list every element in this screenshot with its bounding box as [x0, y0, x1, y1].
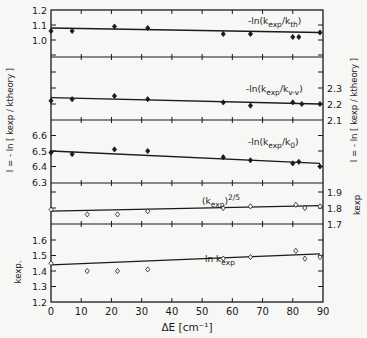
series-label-5: ln kexp [205, 254, 235, 267]
data-point-filled-diamond [49, 98, 53, 103]
fit-line [51, 254, 320, 265]
data-point-filled-diamond [248, 31, 252, 36]
data-point-open-diamond [115, 268, 119, 273]
data-point-open-diamond [294, 248, 298, 253]
outer-frame [51, 10, 323, 302]
left-y-axis-title-upper: I = - ln [ kexp / ktheory ] [5, 68, 15, 172]
data-point-filled-diamond [318, 164, 322, 169]
panel-5-y-ticks: 1.21.31.41.51.6 [32, 235, 323, 308]
data-point-filled-diamond [318, 101, 322, 106]
x-axis-title: ΔE [cm⁻¹] [161, 321, 212, 333]
panel-2: 2.12.22.3-ln(kexp/kv-v) [49, 72, 342, 126]
y-tick-label: 1.1 [32, 20, 47, 31]
left-y-axis-title-lower: kexp. [13, 261, 23, 284]
series-label-4: (kexp)2/5 [202, 193, 240, 209]
data-point-filled-diamond [248, 158, 252, 163]
data-point-filled-diamond [297, 159, 301, 164]
series-label-3: -ln(kexp/k0) [248, 137, 298, 150]
panel-3: 6.36.46.56.6-ln(kexp/k0) [32, 130, 323, 188]
panels: 1.01.11.2-ln(kexp/kth)2.12.22.3-ln(kexp/… [32, 5, 342, 308]
right-y-axis-title-upper: I = - ln [ kexp / ktheory ] [349, 58, 359, 162]
y-tick-label: 2.3 [327, 83, 342, 94]
x-tick-label: 80 [286, 306, 299, 317]
panel-1: 1.01.11.2-ln(kexp/kth) [32, 5, 323, 61]
data-point-open-diamond [146, 267, 150, 272]
fit-line [51, 28, 320, 33]
data-point-open-diamond [303, 256, 307, 261]
data-point-open-diamond [85, 212, 89, 217]
panel-4-markers [49, 202, 322, 217]
y-tick-label: 1.6 [32, 235, 47, 246]
right-y-axis-title-lower: kexp [352, 195, 362, 215]
panel-3-y-ticks: 6.36.46.56.6 [32, 130, 323, 188]
y-tick-label: 1.8 [327, 203, 342, 214]
series-label-2: -ln(kexp/kv-v) [246, 84, 303, 97]
y-tick-label: 2.1 [327, 115, 342, 126]
y-tick-label: 6.4 [32, 161, 47, 172]
y-axis-labels: I = - ln [ kexp / ktheory ]kexp.I = - ln… [5, 58, 362, 284]
panel-5-markers [49, 248, 322, 273]
x-tick-label: 30 [135, 306, 148, 317]
data-point-open-diamond [248, 204, 252, 209]
stacked-scatter-figure: 1.01.11.2-ln(kexp/kth)2.12.22.3-ln(kexp/… [0, 0, 367, 338]
data-point-filled-diamond [146, 148, 150, 153]
x-tick-label: 40 [166, 306, 179, 317]
y-tick-label: 6.3 [32, 177, 47, 188]
data-point-filled-diamond [318, 30, 322, 35]
x-tick-label: 20 [105, 306, 118, 317]
y-tick-label: 1.2 [32, 5, 47, 16]
data-point-open-diamond [115, 212, 119, 217]
data-point-filled-diamond [291, 100, 295, 105]
fit-line [51, 151, 320, 163]
x-tick-label: 50 [196, 306, 209, 317]
data-point-filled-diamond [221, 100, 225, 105]
y-tick-label: 1.3 [32, 281, 47, 292]
y-tick-label: 1.0 [32, 35, 47, 46]
x-tick-label: 60 [226, 306, 239, 317]
data-point-filled-diamond [221, 31, 225, 36]
y-tick-label: 1.7 [327, 219, 342, 230]
y-tick-label: 6.6 [32, 130, 47, 141]
data-point-filled-diamond [49, 28, 53, 33]
y-tick-label: 1.9 [327, 187, 342, 198]
data-point-filled-diamond [112, 93, 116, 98]
data-point-filled-diamond [70, 97, 74, 102]
plot-frame [51, 10, 323, 302]
x-axis: 0102030405060708090ΔE [cm⁻¹] [48, 298, 330, 333]
y-tick-label: 1.4 [32, 266, 47, 277]
data-point-filled-diamond [112, 147, 116, 152]
fit-line [51, 98, 320, 104]
panel-5: 1.21.31.41.51.6ln kexp [32, 235, 323, 308]
data-point-open-diamond [85, 268, 89, 273]
data-point-filled-diamond [248, 103, 252, 108]
data-point-filled-diamond [297, 34, 301, 39]
y-tick-label: 1.2 [32, 297, 47, 308]
x-tick-label: 0 [48, 306, 54, 317]
x-tick-label: 70 [256, 306, 269, 317]
x-tick-label: 90 [317, 306, 330, 317]
data-point-filled-diamond [300, 101, 304, 106]
y-tick-label: 2.2 [327, 99, 342, 110]
data-point-filled-diamond [70, 28, 74, 33]
data-point-filled-diamond [291, 34, 295, 39]
x-tick-label: 10 [75, 306, 88, 317]
fit-line [51, 206, 320, 212]
data-point-filled-diamond [146, 97, 150, 102]
data-point-filled-diamond [112, 24, 116, 29]
y-tick-label: 6.5 [32, 146, 47, 157]
data-point-open-diamond [248, 254, 252, 259]
panel-4: 1.71.81.9(kexp)2/5 [49, 187, 342, 230]
panel-3-markers [49, 147, 322, 169]
series-label-1: -ln(kexp/kth) [248, 16, 301, 29]
y-tick-label: 1.5 [32, 250, 47, 261]
